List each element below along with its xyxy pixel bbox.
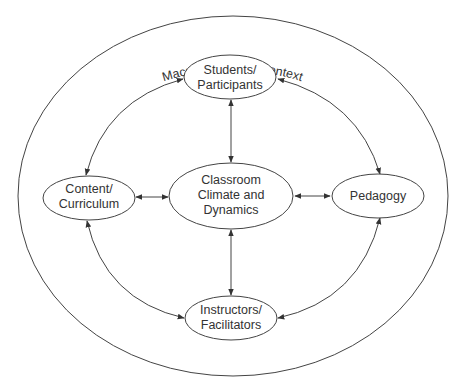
- node-classroom-line1: Classroom: [201, 173, 261, 187]
- node-pedagogy: Pedagogy: [332, 174, 424, 218]
- node-students: Students/ Participants: [184, 55, 276, 99]
- node-pedagogy-line1: Pedagogy: [350, 189, 407, 203]
- diagram-svg: Macro and Micro Context Students/ Partic…: [0, 0, 459, 385]
- node-content-line2: Curriculum: [59, 197, 119, 211]
- arc-content-instructors: [87, 221, 184, 318]
- arc-pedagogy-instructors: [278, 218, 380, 318]
- arc-students-content: [86, 79, 183, 175]
- node-classroom: Classroom Climate and Dynamics: [169, 163, 293, 229]
- node-students-line1: Students/: [204, 63, 257, 77]
- node-instructors-line1: Instructors/: [200, 303, 262, 317]
- node-instructors: Instructors/ Facilitators: [185, 296, 277, 340]
- node-instructors-line2: Facilitators: [201, 318, 261, 332]
- node-classroom-line2: Climate and: [198, 188, 265, 202]
- node-content: Content/ Curriculum: [43, 176, 135, 220]
- arc-students-pedagogy: [278, 79, 380, 174]
- node-classroom-line3: Dynamics: [204, 203, 259, 217]
- node-content-line1: Content/: [65, 182, 113, 196]
- node-students-line2: Participants: [197, 78, 262, 92]
- diagram-canvas: Macro and Micro Context Students/ Partic…: [0, 0, 459, 385]
